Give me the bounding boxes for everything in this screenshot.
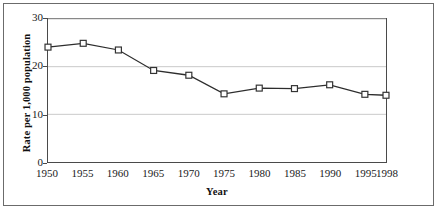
x-tick-label: 1960 bbox=[98, 166, 138, 180]
data-point-marker bbox=[115, 47, 121, 53]
x-tick-label: 1955 bbox=[62, 166, 102, 180]
data-point-marker bbox=[186, 72, 192, 78]
x-tick-label: 1970 bbox=[169, 166, 209, 180]
data-point-marker bbox=[383, 92, 389, 98]
data-point-marker bbox=[327, 82, 333, 88]
y-tick-label: 30 bbox=[19, 12, 43, 23]
x-tick-label: 1998 bbox=[367, 166, 407, 180]
x-tick-label: 1980 bbox=[240, 166, 280, 180]
data-point-marker bbox=[45, 44, 51, 50]
data-point-marker bbox=[362, 91, 368, 97]
data-point-marker bbox=[151, 68, 157, 74]
series-svg bbox=[48, 19, 386, 162]
data-point-marker bbox=[291, 86, 297, 92]
x-tick-label: 1965 bbox=[133, 166, 173, 180]
x-tick-label: 1950 bbox=[27, 166, 67, 180]
series-line-rate bbox=[48, 43, 386, 95]
y-tick-mark bbox=[43, 163, 47, 164]
gridlines bbox=[48, 19, 386, 114]
x-tick-label: 1990 bbox=[310, 166, 350, 180]
chart-figure: Rate per 1,000 population 0102030 195019… bbox=[0, 0, 437, 209]
x-tick-label: 1975 bbox=[204, 166, 244, 180]
plot-area bbox=[47, 18, 387, 163]
y-axis-ticks: 0102030 bbox=[14, 18, 43, 163]
data-point-marker bbox=[221, 91, 227, 97]
x-tick-label: 1985 bbox=[275, 166, 315, 180]
y-tick-label: 20 bbox=[19, 60, 43, 71]
x-axis-ticks: 1950195519601965197019751980198519901995… bbox=[47, 166, 387, 182]
x-axis-title: Year bbox=[47, 186, 387, 197]
data-point-marker bbox=[256, 85, 262, 91]
y-tick-label: 10 bbox=[19, 109, 43, 120]
data-point-marker bbox=[80, 40, 86, 46]
